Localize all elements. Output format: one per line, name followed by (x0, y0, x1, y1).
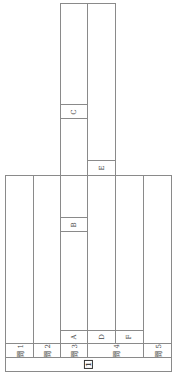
section-number: 1 (5, 357, 172, 372)
subpart-d-label: D (87, 330, 116, 344)
answer-column-e[interactable] (87, 3, 116, 176)
answer-column-c[interactable] (60, 3, 88, 176)
question-2-label: 問 2 (33, 343, 61, 358)
question-1-label: 問 1 (5, 343, 34, 358)
answer-area-a[interactable] (60, 175, 88, 331)
subpart-c-label: C (60, 104, 88, 119)
question-5-label: 問 5 (143, 343, 172, 358)
subpart-a-label: A (60, 330, 88, 344)
subpart-e-label: E (87, 160, 116, 176)
answer-area-d[interactable] (87, 175, 116, 331)
answer-area-q1[interactable] (5, 175, 34, 344)
question-4-label: 問 4 (87, 343, 144, 358)
answer-area-q5[interactable] (143, 175, 172, 344)
subpart-f-label: F (115, 330, 144, 344)
subpart-b-label: B (60, 217, 88, 232)
question-3-label: 問 3 (60, 343, 88, 358)
answer-area-q2[interactable] (33, 175, 61, 344)
answer-area-f[interactable] (115, 175, 144, 331)
